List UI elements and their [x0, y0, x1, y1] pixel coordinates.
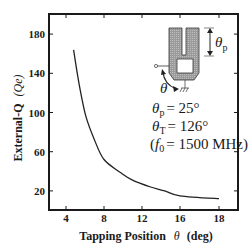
- y-tick-label: 180: [29, 28, 46, 40]
- y-tick-label: 20: [34, 185, 46, 197]
- theta-p-value: = 25°: [166, 100, 199, 116]
- x-axis-title: Tapping Position θ (deg): [79, 229, 213, 243]
- x-tick-label: 18: [214, 212, 226, 224]
- inset-theta-p-label: θp: [215, 34, 227, 53]
- inset-theta-label: θ: [160, 80, 168, 96]
- arrow-head-icon: [161, 69, 166, 75]
- x-tick-label: 12: [137, 212, 149, 224]
- f0-value: = 1500 MHz): [166, 136, 248, 153]
- y-tick-label: 100: [29, 107, 46, 119]
- arrow-down-icon: [207, 51, 213, 56]
- x-axis-title-unit: (deg): [187, 229, 213, 243]
- ground-icon: [180, 88, 189, 92]
- y-axis-ticks: 1801401006020: [29, 28, 239, 197]
- f0-annotation: (f0= 1500 MHz): [150, 136, 248, 154]
- svg-text:External-Q (Qe): External-Q (Qe): [11, 75, 25, 162]
- arrow-up-icon: [207, 28, 213, 33]
- theta-p-sub: p: [159, 107, 164, 118]
- arrow-head-icon-2: [173, 86, 179, 92]
- y-tick-label: 60: [34, 146, 46, 158]
- y-axis-title-symbol: (Qe): [11, 75, 25, 97]
- x-tick-label: 4: [63, 212, 69, 224]
- y-axis-title-main: External-Q: [11, 103, 25, 161]
- theta-t-value: = 126°: [167, 118, 208, 134]
- resonator-inset-diagram: θp θ: [154, 28, 227, 96]
- theta-p-annotation: θp= 25°: [152, 100, 200, 118]
- inset-theta-p-sub: p: [222, 42, 227, 53]
- y-tick-label: 140: [29, 67, 46, 79]
- x-tick-label: 8: [101, 212, 107, 224]
- resonator-body: [169, 28, 199, 80]
- f0-sub: 0: [159, 143, 164, 154]
- external-q-chart: 1801401006020 48121618 External-Q (Qe) T…: [0, 0, 250, 250]
- y-axis-title: External-Q (Qe): [11, 75, 25, 162]
- x-axis-title-main: Tapping Position: [79, 229, 166, 243]
- theta-t-sub: T: [159, 125, 165, 136]
- x-axis-title-symbol: θ: [174, 229, 180, 243]
- x-tick-label: 16: [175, 212, 187, 224]
- feed-port-icon: [154, 64, 157, 67]
- theta-t-annotation: θT= 126°: [152, 118, 208, 136]
